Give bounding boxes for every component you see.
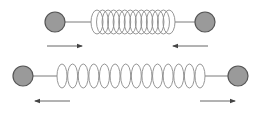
coil-loop xyxy=(152,10,164,34)
coil-loop xyxy=(110,64,120,88)
coil-loop xyxy=(157,10,169,34)
coil-loop xyxy=(195,64,205,88)
coil-loop xyxy=(78,64,88,88)
stretched-spring-system xyxy=(13,64,248,101)
coil-loop xyxy=(102,10,114,34)
coil-loop xyxy=(68,64,78,88)
coil-loop xyxy=(91,10,103,34)
right-mass-ball xyxy=(195,12,215,32)
coil-loop xyxy=(163,10,175,34)
coil-loop xyxy=(146,10,158,34)
compressed-spring-system xyxy=(45,10,215,46)
coil-loop xyxy=(163,64,173,88)
right-mass-ball xyxy=(228,66,248,86)
coil-loop xyxy=(184,64,194,88)
coil-loop xyxy=(142,64,152,88)
coil-loop xyxy=(131,64,141,88)
coil-loop xyxy=(57,64,67,88)
coil-loop xyxy=(108,10,120,34)
coil-loop xyxy=(89,64,99,88)
left-mass-ball xyxy=(45,12,65,32)
coil-loop xyxy=(141,10,153,34)
coil-loop xyxy=(113,10,125,34)
coil-loop xyxy=(135,10,147,34)
spring-coil xyxy=(91,10,175,34)
coil-loop xyxy=(97,10,109,34)
coil-loop xyxy=(124,10,136,34)
left-mass-ball xyxy=(13,66,33,86)
coil-loop xyxy=(119,10,131,34)
spring-coil xyxy=(57,64,205,88)
spring-diagram xyxy=(0,0,262,113)
coil-loop xyxy=(99,64,109,88)
coil-loop xyxy=(174,64,184,88)
coil-loop xyxy=(130,10,142,34)
coil-loop xyxy=(121,64,131,88)
coil-loop xyxy=(153,64,163,88)
